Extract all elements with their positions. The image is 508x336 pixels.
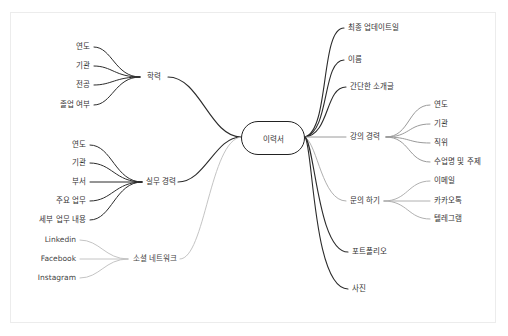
node-name[interactable]: 이름 — [348, 55, 362, 65]
node-lecture-institution[interactable]: 기관 — [434, 119, 448, 129]
node-social-facebook[interactable]: Facebook — [41, 254, 76, 264]
node-education-graduated[interactable]: 졸업 여부 — [60, 100, 90, 110]
root-node[interactable]: 이력서 — [241, 121, 305, 155]
node-work-institution[interactable]: 기관 — [72, 158, 86, 168]
node-education-major[interactable]: 전공 — [76, 80, 90, 90]
node-contact-telegram[interactable]: 텔레그램 — [434, 214, 462, 224]
node-work-main-duties[interactable]: 주요 업무 — [56, 196, 86, 206]
node-lecture-course-topic[interactable]: 수업명 및 주제 — [434, 157, 481, 167]
node-education-institution[interactable]: 기관 — [76, 61, 90, 71]
node-education-year[interactable]: 연도 — [76, 42, 90, 52]
node-social-network[interactable]: 소셜 네트워크 — [133, 254, 177, 264]
node-work-department[interactable]: 부서 — [72, 177, 86, 187]
node-photo[interactable]: 사진 — [352, 284, 366, 294]
node-contact-kakaotalk[interactable]: 카카오톡 — [434, 196, 462, 206]
edge-root-education — [168, 77, 241, 137]
edge-root-name — [305, 60, 344, 137]
edge-root-portfolio — [305, 137, 348, 252]
node-lecture-year[interactable]: 연도 — [434, 100, 448, 110]
node-work-experience[interactable]: 실무 경력 — [146, 177, 176, 187]
node-social-linkedin[interactable]: Linkedin — [45, 235, 76, 245]
node-education[interactable]: 학력 — [147, 72, 161, 82]
node-portfolio[interactable]: 포트폴리오 — [352, 247, 387, 257]
edge-root-work — [178, 137, 241, 182]
node-social-instagram[interactable]: Instagram — [38, 273, 76, 283]
edge-root-social — [180, 137, 241, 259]
node-lecture-position[interactable]: 직위 — [434, 138, 448, 148]
node-work-detailed-duties[interactable]: 세부 업무 내용 — [39, 215, 86, 225]
edge-root-intro — [305, 87, 346, 137]
node-contact-email[interactable]: 이메일 — [434, 176, 455, 186]
node-short-intro[interactable]: 간단한 소개글 — [350, 82, 394, 92]
node-last-updated[interactable]: 최종 업데이트일 — [348, 23, 399, 33]
node-contact[interactable]: 문의 하기 — [350, 196, 380, 206]
root-label: 이력서 — [263, 133, 284, 144]
edge-root-updated — [305, 28, 344, 137]
node-work-year[interactable]: 연도 — [72, 140, 86, 150]
node-lecture-experience[interactable]: 강의 경력 — [350, 132, 380, 142]
